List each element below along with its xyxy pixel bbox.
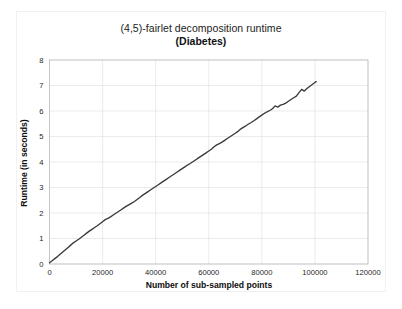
y-tick-label: 0 — [39, 260, 43, 269]
y-tick-label: 3 — [39, 183, 43, 192]
plot-area: 012345678 020000400006000080000100000120… — [0, 0, 402, 309]
x-tick-label: 100000 — [302, 268, 327, 277]
x-tick-label: 20000 — [92, 268, 113, 277]
x-axis-tick-labels: 020000400006000080000100000120000 — [47, 268, 380, 277]
y-tick-label: 2 — [39, 209, 43, 218]
y-tick-label: 5 — [39, 132, 43, 141]
chart-figure: (4,5)-fairlet decomposition runtime (Dia… — [0, 0, 402, 309]
x-axis-title: Number of sub-sampled points — [146, 280, 273, 290]
x-tick-label: 0 — [47, 268, 51, 277]
series-line — [50, 82, 317, 263]
y-tick-label: 7 — [39, 81, 43, 90]
y-tick-label: 1 — [39, 234, 43, 243]
y-tick-label: 6 — [39, 107, 43, 116]
y-tick-label: 8 — [39, 56, 43, 65]
data-series-runtime — [50, 82, 317, 263]
y-axis-title: Runtime (in seconds) — [19, 119, 29, 207]
x-tick-label: 40000 — [145, 268, 166, 277]
x-tick-label: 80000 — [251, 268, 272, 277]
x-tick-label: 60000 — [198, 268, 219, 277]
y-axis-tick-labels: 012345678 — [39, 56, 43, 269]
y-tick-label: 4 — [39, 158, 43, 167]
x-tick-label: 120000 — [355, 268, 380, 277]
